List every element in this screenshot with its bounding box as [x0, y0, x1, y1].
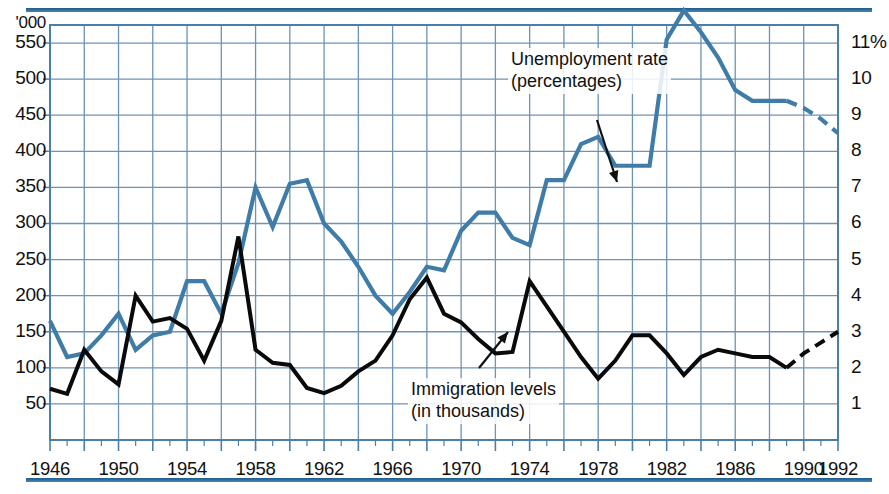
y-axis-left-tick: 550: [0, 31, 46, 53]
x-axis-tick: 1986: [705, 458, 765, 480]
y-axis-right-tick: 6: [851, 211, 861, 233]
y-axis-left-tick: 450: [0, 103, 46, 125]
immigration-annotation-line2: (in thousands): [411, 401, 556, 423]
x-axis-tick: 1970: [431, 458, 491, 480]
y-axis-left-tick: 350: [0, 175, 46, 197]
x-axis-tick: 1954: [157, 458, 217, 480]
y-axis-right-tick: 2: [851, 356, 861, 378]
data-series: [50, 11, 838, 394]
x-axis-tick: 1982: [637, 458, 697, 480]
x-axis-tick: 1946: [20, 458, 80, 480]
y-axis-right-tick: 7: [851, 175, 861, 197]
y-axis-left-tick: 150: [0, 320, 46, 342]
y-axis-left-tick: 500: [0, 67, 46, 89]
y-axis-right-tick: 3: [851, 320, 861, 342]
x-axis-tick: 1966: [363, 458, 423, 480]
y-axis-right-tick: 4: [851, 284, 861, 306]
unemployment-annotation-line2: (percentages): [511, 71, 668, 93]
y-axis-left-unit: '000: [0, 13, 46, 33]
y-axis-left-tick: 200: [0, 284, 46, 306]
unemployment-annotation-line1: Unemployment rate: [511, 49, 668, 71]
unemployment-annotation: Unemployment rate (percentages): [508, 48, 671, 94]
y-axis-right-tick: 9: [851, 103, 861, 125]
x-axis-tick: 1974: [500, 458, 560, 480]
x-axis-tick: 1950: [89, 458, 149, 480]
x-axis-tick: 1962: [294, 458, 354, 480]
y-axis-left-tick: 250: [0, 248, 46, 270]
x-axis-tick: 1992: [808, 458, 868, 480]
chart-figure: '00050100150200250300350400450500550 123…: [0, 0, 889, 494]
immigration-annotation-line1: Immigration levels: [411, 379, 556, 401]
y-axis-left-tick: 100: [0, 356, 46, 378]
immigration-annotation: Immigration levels (in thousands): [408, 378, 559, 424]
x-axis-tick: 1978: [568, 458, 628, 480]
x-axis-tick: 1958: [226, 458, 286, 480]
y-axis-right-tick: 8: [851, 139, 861, 161]
annotation-arrows: [479, 120, 618, 368]
y-axis-left-tick: 400: [0, 139, 46, 161]
y-axis-right-tick: 1: [851, 392, 861, 414]
y-axis-left-tick: 50: [0, 392, 46, 414]
y-axis-right-tick: 10: [851, 67, 872, 89]
y-axis-left-tick: 300: [0, 211, 46, 233]
y-axis-right-tick: 5: [851, 248, 861, 270]
y-axis-right-tick: 11%: [851, 31, 887, 53]
